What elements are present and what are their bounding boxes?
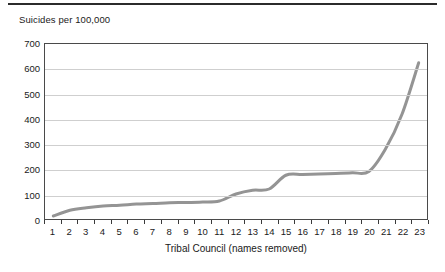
x-axis-tick-label: 17 bbox=[314, 226, 325, 237]
x-axis-tick-label: 10 bbox=[197, 226, 208, 237]
x-axis-tick bbox=[144, 220, 145, 224]
x-axis-tick bbox=[328, 220, 329, 224]
x-axis-tick bbox=[395, 220, 396, 224]
x-axis-tick-labels: 1234567891011121314151617181920212223 bbox=[44, 226, 428, 240]
x-axis-tick-label: 2 bbox=[66, 226, 71, 237]
y-axis-tick-label: 200 bbox=[0, 164, 40, 175]
x-axis-tick-label: 7 bbox=[150, 226, 155, 237]
x-axis-tick-label: 5 bbox=[116, 226, 121, 237]
x-axis-tick bbox=[261, 220, 262, 224]
x-axis-tick bbox=[111, 220, 112, 224]
x-axis-tick bbox=[61, 220, 62, 224]
y-axis-tick-label: 300 bbox=[0, 139, 40, 150]
x-axis-tick-label: 18 bbox=[331, 226, 342, 237]
x-axis-tick-label: 19 bbox=[348, 226, 359, 237]
x-axis-tick bbox=[411, 220, 412, 224]
gridline-500 bbox=[45, 95, 427, 96]
x-axis-tick bbox=[178, 220, 179, 224]
x-axis-tick-label: 22 bbox=[398, 226, 409, 237]
y-axis-tick-label: 500 bbox=[0, 88, 40, 99]
y-axis-tick-label: 100 bbox=[0, 189, 40, 200]
x-axis-tick-label: 14 bbox=[264, 226, 275, 237]
x-axis-tick-label: 12 bbox=[231, 226, 242, 237]
gridline-200 bbox=[45, 170, 427, 171]
gridline-400 bbox=[45, 120, 427, 121]
x-axis-tick-label: 15 bbox=[281, 226, 292, 237]
gridline-300 bbox=[45, 145, 427, 146]
x-axis-tick-label: 21 bbox=[381, 226, 392, 237]
x-axis-tick-label: 8 bbox=[167, 226, 172, 237]
x-axis-tick bbox=[127, 220, 128, 224]
x-axis-tick-label: 9 bbox=[183, 226, 188, 237]
series-line-path bbox=[53, 63, 418, 216]
y-axis-tick-label: 0 bbox=[0, 215, 40, 226]
x-axis-tick-label: 20 bbox=[364, 226, 375, 237]
x-axis-tick-label: 13 bbox=[247, 226, 258, 237]
x-axis-tick bbox=[194, 220, 195, 224]
x-axis-tick bbox=[311, 220, 312, 224]
x-axis-tick bbox=[244, 220, 245, 224]
y-axis-tick-label: 600 bbox=[0, 63, 40, 74]
x-axis-tick bbox=[77, 220, 78, 224]
y-axis-tick-label: 700 bbox=[0, 38, 40, 49]
x-axis-tick-label: 23 bbox=[414, 226, 425, 237]
x-axis-tick bbox=[428, 220, 429, 224]
chart-figure: Suicides per 100,000 0100200300400500600… bbox=[0, 0, 445, 272]
x-axis-tick bbox=[211, 220, 212, 224]
x-axis-tick-label: 16 bbox=[297, 226, 308, 237]
x-axis-tick bbox=[278, 220, 279, 224]
y-axis-tick-labels: 0100200300400500600700 bbox=[0, 43, 40, 220]
x-axis-title: Tribal Council (names removed) bbox=[44, 243, 428, 254]
x-axis-tick bbox=[361, 220, 362, 224]
x-axis-tick bbox=[94, 220, 95, 224]
x-axis-tick bbox=[228, 220, 229, 224]
y-axis-tick-label: 400 bbox=[0, 113, 40, 124]
x-axis-tick bbox=[294, 220, 295, 224]
x-axis-tick bbox=[44, 220, 45, 224]
gridline-100 bbox=[45, 196, 427, 197]
x-axis-tick-label: 1 bbox=[50, 226, 55, 237]
x-axis-tick-marks bbox=[44, 220, 428, 225]
x-axis-tick-label: 6 bbox=[133, 226, 138, 237]
plot-area bbox=[44, 43, 428, 220]
x-axis-tick bbox=[378, 220, 379, 224]
gridline-600 bbox=[45, 69, 427, 70]
plot-wrapper: 0100200300400500600700 12345678910111213… bbox=[0, 0, 445, 272]
x-axis-tick-label: 3 bbox=[83, 226, 88, 237]
x-axis-tick-label: 11 bbox=[214, 226, 224, 237]
x-axis-tick bbox=[345, 220, 346, 224]
x-axis-tick bbox=[161, 220, 162, 224]
x-axis-tick-label: 4 bbox=[100, 226, 105, 237]
